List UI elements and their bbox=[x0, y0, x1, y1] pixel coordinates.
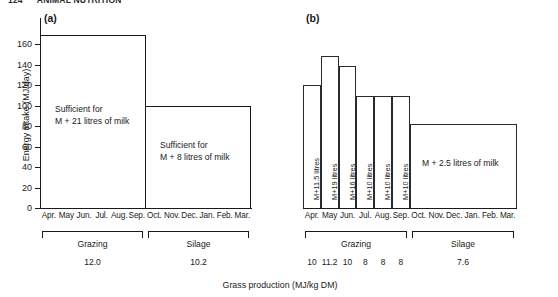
panel-b-month-aug: Aug. bbox=[374, 211, 392, 220]
panel-b-bar-label-jun: M+16 litres bbox=[348, 164, 357, 200]
panel-b-month-mar: Mar. bbox=[499, 211, 517, 220]
panel-a-bracket-silage bbox=[148, 231, 249, 238]
panel-a-month-jan: Jan. bbox=[198, 211, 216, 220]
panel-b-month-dec: Dec. bbox=[445, 211, 463, 220]
figure-caption: Grass production (MJ/kg DM) bbox=[150, 280, 410, 290]
panel-b-production-may: 11.2 bbox=[321, 257, 339, 267]
running-head-title: ANIMAL NUTRITION bbox=[37, 0, 122, 5]
panel-b-month-jun: Jun. bbox=[339, 211, 357, 220]
running-head: 124ANIMAL NUTRITION bbox=[8, 0, 122, 5]
panel-b-production-aug: 8 bbox=[374, 257, 392, 267]
panel-a-month-jun: Jun. bbox=[75, 211, 93, 220]
y-tick-label-140: 140 bbox=[6, 60, 32, 70]
panel-b-production-sep: 8 bbox=[392, 257, 410, 267]
panel-a-baseline bbox=[40, 208, 252, 209]
panel-b-month-apr: Apr. bbox=[303, 211, 321, 220]
panel-a-bracket-grazing bbox=[42, 231, 143, 238]
panel-a-annotation-silage-line1: Sufficient for bbox=[160, 140, 229, 152]
panel-b-month-may: May bbox=[321, 211, 339, 220]
y-tick-label-40: 40 bbox=[6, 162, 32, 172]
panel-b-baseline bbox=[303, 208, 517, 209]
panel-b-bar-label-apr: M+11.5 litres bbox=[312, 158, 321, 200]
panel-a-label: (a) bbox=[44, 12, 57, 24]
panel-b-month-feb: Feb. bbox=[481, 211, 499, 220]
y-tick-label-0: 0 bbox=[6, 203, 32, 213]
panel-b-bracket-grazing bbox=[305, 231, 407, 238]
panel-b-production-apr: 10 bbox=[303, 257, 321, 267]
panel-b-production-jun: 10 bbox=[339, 257, 357, 267]
panel-a-month-jul: Jul. bbox=[93, 211, 111, 220]
panel-b-month-nov: Nov. bbox=[428, 211, 446, 220]
panel-a-month-oct: Oct. bbox=[146, 211, 164, 220]
panel-a-annotation-silage-line2: M + 8 litres of milk bbox=[160, 152, 229, 164]
panel-a-month-dec: Dec. bbox=[181, 211, 199, 220]
panel-b-bar-label-may: M+19 litres bbox=[330, 164, 339, 200]
panel-b-production-jul: 8 bbox=[356, 257, 374, 267]
panel-b-bracket-label-silage: Silage bbox=[412, 239, 514, 249]
page-number: 124 bbox=[8, 0, 23, 5]
panel-a-bracket-value-silage: 10.2 bbox=[148, 257, 249, 267]
panel-b-bar-label-sep: M+10 litres bbox=[401, 164, 410, 200]
panel-b-month-oct: Oct. bbox=[410, 211, 428, 220]
y-tick-label-60: 60 bbox=[6, 142, 32, 152]
y-tick-label-20: 20 bbox=[6, 183, 32, 193]
y-tick-label-160: 160 bbox=[6, 39, 32, 49]
panel-b-bar-label-jul: M+10 litres bbox=[365, 164, 374, 200]
panel-a-bracket-label-silage: Silage bbox=[148, 239, 249, 249]
panel-a-annotation-grazing-line1: Sufficient for bbox=[55, 104, 129, 116]
panel-a-month-may: May bbox=[58, 211, 76, 220]
panel-a-annotation-grazing-line2: M + 21 litres of milk bbox=[55, 116, 129, 128]
panel-a-month-mar: Mar. bbox=[234, 211, 252, 220]
panel-b-month-jul: Jul. bbox=[356, 211, 374, 220]
panel-a-month-aug: Aug. bbox=[110, 211, 128, 220]
y-tick-label-100: 100 bbox=[6, 101, 32, 111]
panel-a-month-nov: Nov. bbox=[163, 211, 181, 220]
panel-a-month-feb: Feb. bbox=[216, 211, 234, 220]
panel-b-month-sep: Sep. bbox=[392, 211, 410, 220]
panel-b-annotation-silage: M + 2.5 litres of milk bbox=[422, 158, 499, 170]
panel-b-month-jan: Jan. bbox=[463, 211, 481, 220]
panel-a-annotation-silage: Sufficient for M + 8 litres of milk bbox=[160, 140, 229, 163]
panel-a-bracket-label-grazing: Grazing bbox=[42, 239, 143, 249]
panel-a-month-sep: Sep. bbox=[128, 211, 146, 220]
panel-b-bar-label-aug: M+10 litres bbox=[383, 164, 392, 200]
panel-b-bracket-label-grazing: Grazing bbox=[305, 239, 407, 249]
panel-a-bracket-value-grazing: 12.0 bbox=[42, 257, 143, 267]
panel-a-annotation-grazing: Sufficient for M + 21 litres of milk bbox=[55, 104, 129, 127]
y-tick-label-120: 120 bbox=[6, 80, 32, 90]
panel-b-bracket-value-silage: 7.6 bbox=[412, 257, 514, 267]
panel-b-label: (b) bbox=[306, 12, 319, 24]
panel-b-production-values: 1011.210888 bbox=[303, 257, 410, 267]
panel-b-month-axis: Apr.MayJun.Jul.Aug.Sep.Oct.Nov.Dec.Jan.F… bbox=[303, 211, 517, 220]
figure-container: 124ANIMAL NUTRITION (a) (b) Energy intak… bbox=[0, 0, 558, 297]
panel-a-month-axis: Apr.MayJun.Jul.Aug.Sep.Oct.Nov.Dec.Jan.F… bbox=[40, 211, 252, 220]
y-tick-label-80: 80 bbox=[6, 121, 32, 131]
panel-b-bracket-silage bbox=[412, 231, 514, 238]
panel-a-month-apr: Apr. bbox=[40, 211, 58, 220]
